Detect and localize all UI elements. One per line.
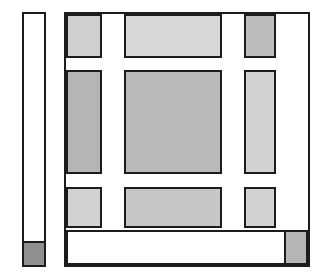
diagram-canvas bbox=[0, 0, 321, 279]
bottom-strip bbox=[66, 230, 308, 265]
block-row2-col3 bbox=[244, 70, 276, 174]
block-row3-col3 bbox=[244, 187, 276, 228]
block-row2-col1 bbox=[66, 70, 102, 174]
block-row1-col3 bbox=[244, 14, 276, 58]
block-row1-col1 bbox=[66, 14, 102, 58]
left-narrow-panel bbox=[22, 12, 46, 267]
block-row1-col2 bbox=[124, 14, 222, 58]
block-row3-col1 bbox=[66, 187, 102, 228]
left-panel-foot-block bbox=[22, 241, 46, 267]
block-row2-col2 bbox=[124, 70, 222, 174]
bottom-right-foot-block bbox=[284, 230, 308, 265]
block-row3-col2 bbox=[124, 187, 222, 228]
